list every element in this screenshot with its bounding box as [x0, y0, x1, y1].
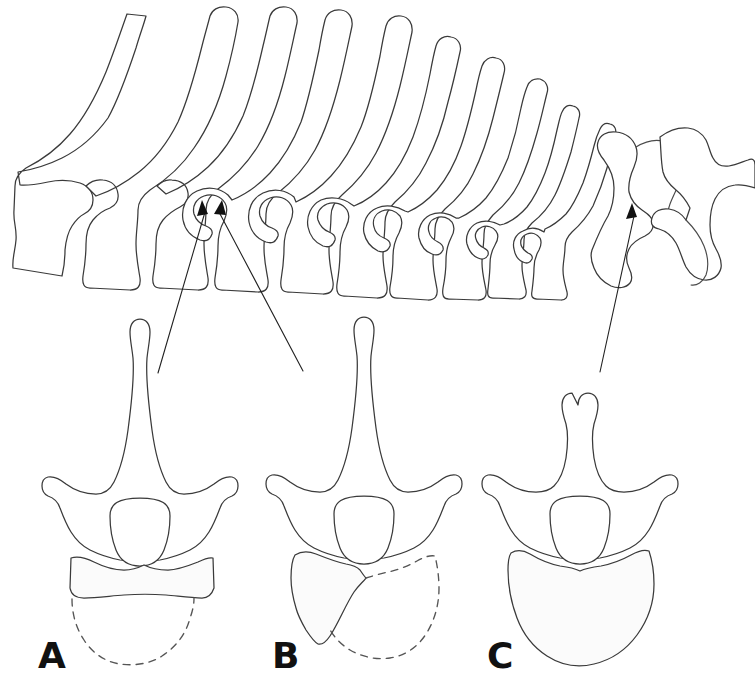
panel-label-a: A: [38, 635, 66, 676]
vertebra-b-neural-canal: [334, 496, 394, 564]
panel-label-b: B: [272, 635, 299, 676]
vertebra-c-neural-canal: [550, 496, 610, 564]
vertebral-column-figure: A B C: [0, 0, 755, 698]
vertebra-a-neural-canal: [110, 498, 170, 566]
figure-root: A B C: [0, 0, 755, 698]
panel-label-c: C: [487, 635, 513, 676]
